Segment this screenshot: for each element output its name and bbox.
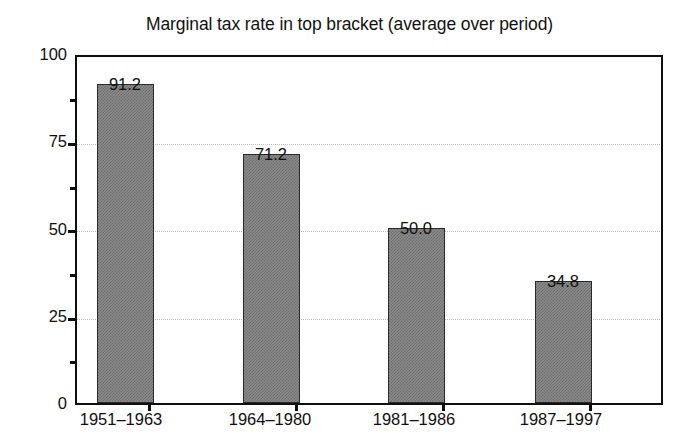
x-tick-label-1981-1986: 1981–1986 <box>349 410 479 429</box>
bar-chart-figure: Marginal tax rate in top bracket (averag… <box>0 0 699 448</box>
gridline-75 <box>77 144 661 145</box>
y-tick-minor-87_5 <box>70 99 77 102</box>
y-tick-minor-12_5 <box>70 361 77 364</box>
y-tick-major-25 <box>68 318 77 321</box>
x-tick-label-1964-1980: 1964–1980 <box>205 410 335 429</box>
bar-value-1951-1963: 91.2 <box>60 75 190 94</box>
x-tick-3 <box>442 403 445 411</box>
bar-1981-1986 <box>388 228 445 403</box>
x-tick-4 <box>589 403 592 411</box>
bar-1987-1997 <box>535 281 592 403</box>
bar-value-1964-1980: 71.2 <box>206 145 336 164</box>
y-tick-minor-37_5 <box>70 274 77 277</box>
x-tick-1 <box>148 403 151 411</box>
y-tick-minor-62_5 <box>70 187 77 190</box>
bar-1964-1980 <box>243 154 300 403</box>
bar-value-1987-1997: 34.8 <box>498 272 628 291</box>
x-tick-2 <box>295 403 298 411</box>
y-tick-major-50 <box>68 230 77 233</box>
bar-1951-1963 <box>97 84 154 403</box>
x-tick-label-1951-1963: 1951–1963 <box>56 410 186 429</box>
y-tick-major-75 <box>68 143 77 146</box>
bar-value-1981-1986: 50.0 <box>351 219 481 238</box>
x-tick-label-1987-1997: 1987–1997 <box>496 410 626 429</box>
